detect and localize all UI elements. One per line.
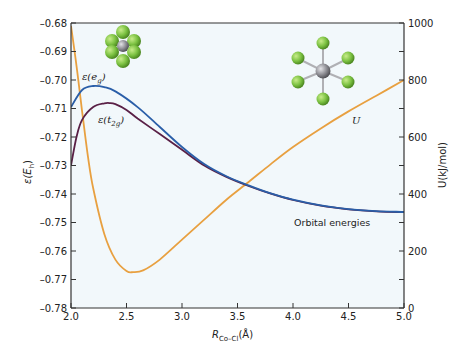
y-right-axis-label: U(kJ/mol) xyxy=(437,142,448,188)
tick-label: –0.70 xyxy=(40,75,67,86)
tick-label: –0.77 xyxy=(40,274,67,285)
orbital-energy-chart: 2.02.53.03.54.04.55.0–0.68–0.69–0.70–0.7… xyxy=(0,0,463,358)
y-left-axis-label: ε(Eh) xyxy=(22,160,36,184)
orbital-energies-label: Orbital energies xyxy=(294,217,370,228)
tick-label: 600 xyxy=(408,132,427,143)
tick-label: –0.72 xyxy=(40,132,67,143)
tick-label: –0.71 xyxy=(40,103,67,114)
tick-label: –0.68 xyxy=(40,18,67,29)
tick-label: 1000 xyxy=(408,18,433,29)
tick-label: 3.0 xyxy=(174,311,190,322)
tick-label: 2.5 xyxy=(119,311,135,322)
x-axis-label: RCo–Cl(Å) xyxy=(212,328,253,343)
tick-label: –0.78 xyxy=(40,303,67,314)
tick-label: 200 xyxy=(408,246,427,257)
tick-label: 4.0 xyxy=(285,311,301,322)
tick-label: 3.5 xyxy=(230,311,246,322)
tick-label: –0.73 xyxy=(40,160,67,171)
tick-label: 800 xyxy=(408,75,427,86)
tick-label: –0.76 xyxy=(40,246,67,257)
tick-label: –0.74 xyxy=(40,189,67,200)
tick-label: 400 xyxy=(408,189,427,200)
tick-label: –0.75 xyxy=(40,217,67,228)
tick-label: 0 xyxy=(408,303,414,314)
tick-label: 4.5 xyxy=(341,311,357,322)
tick-label: –0.69 xyxy=(40,46,67,57)
u-label: U xyxy=(352,115,361,126)
